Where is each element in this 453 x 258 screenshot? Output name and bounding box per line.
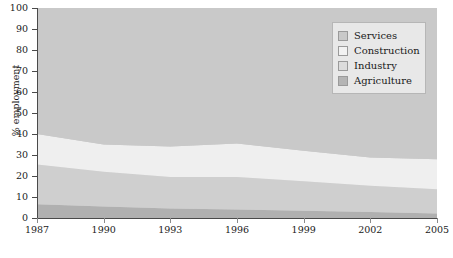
y-tick [32, 71, 37, 72]
legend-swatch-agriculture [338, 76, 348, 86]
x-tick-label: 1999 [284, 224, 324, 235]
legend-swatch-services [338, 31, 348, 41]
y-tick-label: 10 [0, 192, 28, 201]
y-tick-label: 30 [0, 150, 28, 159]
y-axis-title: % employment [10, 61, 21, 141]
y-tick-label: 0 [0, 213, 28, 222]
legend-item-construction[interactable]: Construction [338, 43, 421, 58]
y-tick [32, 29, 37, 30]
y-tick [32, 134, 37, 135]
x-tick [104, 218, 105, 223]
y-tick [32, 113, 37, 114]
y-axis-line [37, 8, 38, 219]
legend-item-services[interactable]: Services [338, 28, 421, 43]
x-tick [304, 218, 305, 223]
y-tick [32, 50, 37, 51]
y-tick [32, 176, 37, 177]
x-tick-label: 2005 [417, 224, 453, 235]
legend-swatch-construction [338, 46, 348, 56]
x-tick [170, 218, 171, 223]
legend-item-agriculture[interactable]: Agriculture [338, 73, 421, 88]
legend-label-industry: Industry [354, 60, 397, 71]
x-tick [37, 218, 38, 223]
x-tick-label: 2002 [350, 224, 390, 235]
y-tick-label: 20 [0, 171, 28, 180]
y-tick [32, 197, 37, 198]
y-tick-label: 80 [0, 45, 28, 54]
x-tick [437, 218, 438, 223]
legend-item-industry[interactable]: Industry [338, 58, 421, 73]
legend-label-agriculture: Agriculture [354, 75, 412, 86]
legend: Services Construction Industry Agricultu… [332, 22, 426, 94]
x-tick-label: 1987 [17, 224, 57, 235]
legend-label-services: Services [354, 30, 397, 41]
y-tick [32, 92, 37, 93]
y-tick-label: 100 [0, 3, 28, 12]
y-tick [32, 155, 37, 156]
legend-swatch-industry [338, 61, 348, 71]
x-tick [370, 218, 371, 223]
x-tick [237, 218, 238, 223]
legend-label-construction: Construction [354, 45, 420, 56]
x-tick-label: 1990 [84, 224, 124, 235]
y-tick-label: 90 [0, 24, 28, 33]
x-tick-label: 1996 [217, 224, 257, 235]
y-tick [32, 8, 37, 9]
x-tick-label: 1993 [150, 224, 190, 235]
